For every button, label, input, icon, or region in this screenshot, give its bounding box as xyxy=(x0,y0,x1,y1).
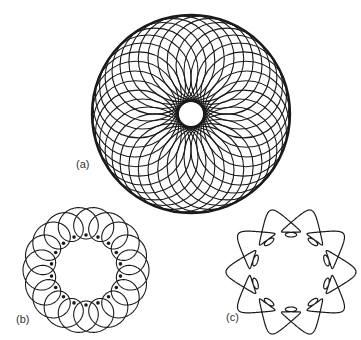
figure-a-circle-rosette xyxy=(92,15,290,213)
figure-b-looped-ring xyxy=(23,208,149,333)
figure-c-lobed-loop-ring xyxy=(226,210,356,334)
figure-canvas xyxy=(0,0,361,340)
figure-c-label: (c) xyxy=(226,312,239,323)
figure-a-label: (a) xyxy=(76,159,89,170)
figure-b-label: (b) xyxy=(16,314,29,325)
